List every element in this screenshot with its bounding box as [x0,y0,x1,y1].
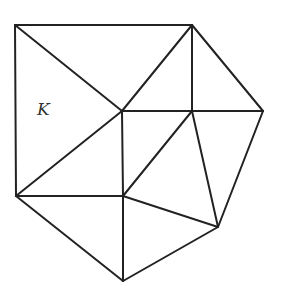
mesh-edge-ih [123,227,218,281]
mesh-edge-gh [123,196,218,227]
mesh-edge-dg [123,111,192,196]
mesh-edge-dh [192,111,218,227]
mesh-edge-cg [122,111,123,196]
mesh-edge-ac [15,25,122,111]
mesh-edge-fi [16,196,123,281]
mesh-edge-eh [218,111,263,227]
triangulation-mesh [0,0,281,295]
mesh-edge-be [192,25,263,111]
element-label-k: K [37,101,50,118]
mesh-edge-cf [16,111,122,196]
mesh-edge-af [15,25,16,196]
mesh-edge-bc [122,25,192,111]
